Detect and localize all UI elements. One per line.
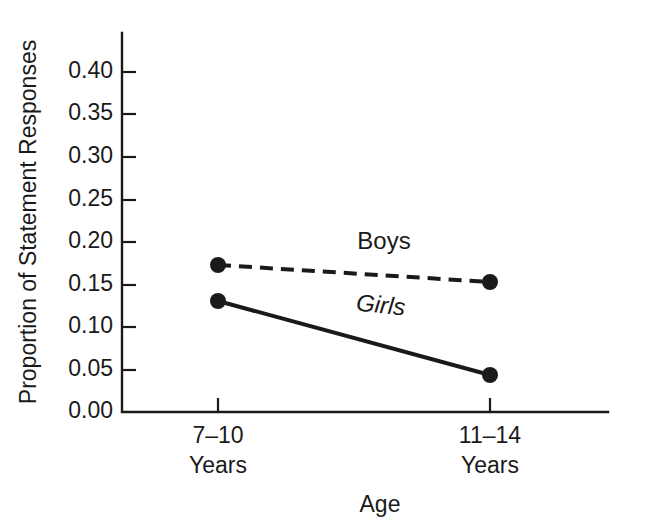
- series-boys: [210, 257, 498, 290]
- y-tick-label-0.15: 0.15: [68, 270, 113, 296]
- x-axis-title: Age: [360, 491, 401, 517]
- series-girls: [210, 293, 498, 383]
- series-labels: Boys Girls: [355, 227, 411, 321]
- y-axis-ticks: [122, 72, 136, 370]
- series-boys-line: [218, 265, 490, 282]
- series-label-boys: Boys: [357, 227, 410, 254]
- series-girls-point-11-14: [482, 367, 498, 383]
- y-axis-tick-labels: 0.40 0.35 0.30 0.25 0.20 0.15 0.10 0.05 …: [68, 57, 113, 423]
- y-tick-label-0.00: 0.00: [68, 397, 113, 423]
- y-tick-label-0.35: 0.35: [68, 99, 113, 125]
- x-axis-tick-labels: 7–10 Years 11–14 Years: [189, 422, 521, 478]
- y-tick-label-0.20: 0.20: [68, 227, 113, 253]
- y-tick-label-0.30: 0.30: [68, 142, 113, 168]
- series-boys-point-11-14: [482, 274, 498, 290]
- series-girls-line: [218, 301, 490, 375]
- x-tick-label-7-10-units: Years: [189, 452, 247, 478]
- chart-canvas: 0.40 0.35 0.30 0.25 0.20 0.15 0.10 0.05 …: [0, 0, 646, 524]
- axis-lines: [122, 33, 608, 412]
- x-axis-ticks: [218, 398, 490, 412]
- axes-group: [122, 33, 608, 412]
- y-tick-label-0.05: 0.05: [68, 355, 113, 381]
- series-girls-point-7-10: [210, 293, 226, 309]
- x-tick-label-11-14-units: Years: [461, 452, 519, 478]
- series-boys-point-7-10: [210, 257, 226, 273]
- series-label-girls: Girls: [355, 289, 407, 321]
- y-tick-label-0.40: 0.40: [68, 57, 113, 83]
- x-tick-label-11-14-range: 11–14: [459, 422, 521, 448]
- y-tick-label-0.10: 0.10: [68, 312, 113, 338]
- y-axis-title: Proportion of Statement Responses: [15, 40, 41, 404]
- x-tick-label-7-10-range: 7–10: [192, 422, 243, 448]
- line-chart: 0.40 0.35 0.30 0.25 0.20 0.15 0.10 0.05 …: [0, 0, 646, 524]
- y-tick-label-0.25: 0.25: [68, 185, 113, 211]
